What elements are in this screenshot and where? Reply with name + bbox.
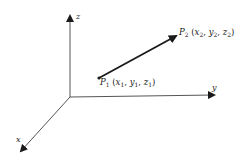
y-axis-label: y [212,84,217,92]
x-axis [21,97,70,151]
point-p1-label: P1 (x1, y1, z1) [100,78,155,87]
y-axis [70,95,214,97]
z-axis-label: z [76,13,80,21]
vector-p1-p2 [99,36,176,78]
x-axis-label: x [16,136,21,144]
point-p2-label: P2 (x2, y2, z2) [179,28,234,37]
